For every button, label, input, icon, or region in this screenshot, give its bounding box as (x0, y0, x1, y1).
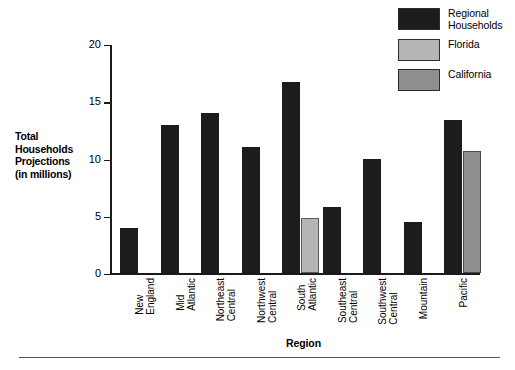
bar-south-atlantic-florida (301, 218, 319, 273)
plot-area: 20 15 10 5 0 (110, 40, 480, 274)
bar-pacific-regional-households (444, 120, 462, 273)
y-tick-label-5: 5 (95, 210, 101, 222)
legend-item-regional-households: Regional Households (398, 8, 513, 31)
y-axis-title-line-1: Total (15, 130, 95, 143)
bar-mountain-regional-households (404, 222, 422, 274)
bar-new-england-regional-households (120, 228, 138, 274)
bar-northeast-central-regional-households (201, 113, 219, 273)
y-axis-title-line-2: Households (15, 143, 95, 156)
bar-southeast-central-regional-households (323, 207, 341, 273)
bar-southwest-central-regional-households (363, 159, 381, 274)
y-tick-label-15: 15 (89, 95, 101, 107)
x-tick-label-southwest-central: SouthwestCentral (377, 278, 399, 325)
bar-chart-figure: Regional Households Florida California T… (0, 0, 515, 370)
y-tick-label-20: 20 (89, 38, 101, 50)
bottom-divider-rule (19, 357, 500, 358)
legend-swatch-regional-households (398, 8, 440, 30)
x-tick-label-mountain: Mountain (418, 278, 429, 319)
x-tick-label-southeast-central: SoutheastCentral (337, 278, 359, 323)
bar-mid-atlantic-regional-households (161, 125, 179, 274)
x-tick-label-pacific: Pacific (458, 278, 469, 307)
bar-south-atlantic-regional-households (282, 82, 300, 273)
bars-layer (110, 40, 480, 274)
x-tick-label-mid-atlantic: MidAtlantic (175, 278, 197, 311)
bar-northwest-central-regional-households (242, 147, 260, 273)
x-tick-label-south-atlantic: SouthAtlantic (296, 278, 318, 311)
y-tick-label-0: 0 (95, 267, 101, 279)
legend-label-regional-households: Regional Households (448, 8, 502, 31)
x-tick-label-northeast-central: NortheastCentral (215, 278, 237, 321)
x-tick-label-northwest-central: NorthwestCentral (256, 278, 278, 323)
x-axis-title: Region (286, 337, 321, 349)
bar-pacific-california (463, 151, 481, 274)
y-axis-title-line-4: (in millions) (15, 168, 95, 181)
y-tick-label-10: 10 (89, 153, 101, 165)
y-axis-title: Total Households Projections (in million… (15, 130, 95, 180)
y-axis-title-line-3: Projections (15, 155, 95, 168)
x-tick-label-new-england: NewEngland (134, 278, 156, 315)
